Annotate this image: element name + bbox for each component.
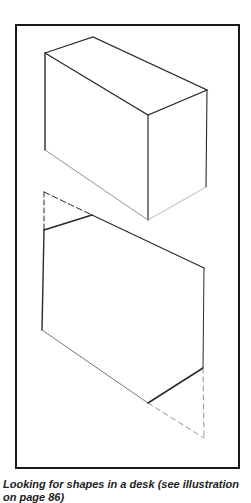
sketch-illustration <box>0 0 251 503</box>
hexagon-sketch <box>42 192 204 438</box>
box-sketch <box>45 37 207 220</box>
figure-caption: Looking for shapes in a desk (see illust… <box>3 478 251 503</box>
